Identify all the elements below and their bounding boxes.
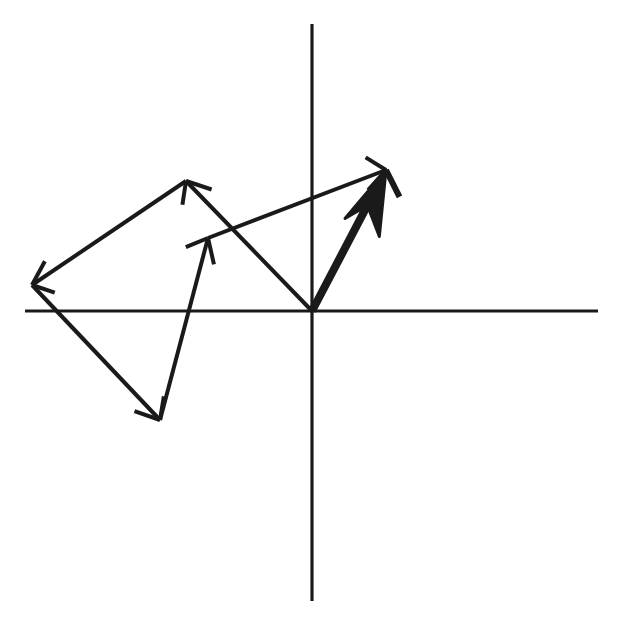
vector-diagram-figure [0,0,618,631]
vector-diagram-canvas [0,0,618,631]
figure-background [0,0,618,631]
